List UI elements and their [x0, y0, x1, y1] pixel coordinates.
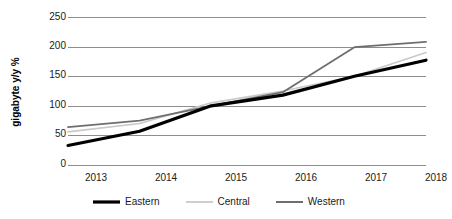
gridline-0	[68, 165, 426, 166]
x-tick-label-2017: 2017	[348, 172, 404, 183]
legend-label-western: Western	[308, 196, 345, 207]
series-line-eastern	[68, 60, 426, 145]
legend-swatch-central-icon	[186, 198, 213, 206]
x-tick-label-2018: 2018	[408, 172, 452, 183]
y-tick-label-0: 0	[32, 159, 66, 169]
legend-item-western[interactable]: Western	[276, 196, 345, 207]
legend-label-eastern: Eastern	[125, 196, 159, 207]
x-tick-label-2015: 2015	[208, 172, 264, 183]
y-tick-label-150: 150	[32, 70, 66, 80]
series-line-central	[68, 53, 426, 132]
legend-swatch-eastern-icon	[93, 198, 120, 206]
x-tick-label-2016: 2016	[278, 172, 334, 183]
y-tick-label-100: 100	[32, 100, 66, 110]
chart-legend: Eastern Central Western	[0, 196, 438, 207]
series-container	[68, 17, 426, 165]
legend-item-eastern[interactable]: Eastern	[93, 196, 159, 207]
x-tick-label-2014: 2014	[138, 172, 194, 183]
y-tick-label-200: 200	[32, 41, 66, 51]
series-line-western	[68, 42, 426, 127]
y-tick-label-50: 50	[32, 129, 66, 139]
plot-area	[68, 17, 426, 165]
x-tick-label-2013: 2013	[68, 172, 124, 183]
y-tick-label-250: 250	[32, 12, 66, 22]
y-axis-title-text: gigabyte y/y %	[10, 37, 21, 147]
legend-swatch-western-icon	[276, 198, 303, 206]
y-axis-title: gigabyte y/y %	[10, 0, 26, 37]
legend-item-central[interactable]: Central	[186, 196, 250, 207]
legend-label-central: Central	[218, 196, 250, 207]
